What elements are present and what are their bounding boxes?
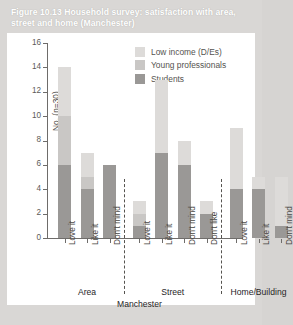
bar-segment bbox=[178, 141, 191, 165]
x-axis-tick-mark bbox=[162, 239, 163, 243]
y-axis-tick-label: 14 bbox=[32, 62, 41, 71]
x-axis-tick-label: Don't like bbox=[210, 212, 219, 245]
chart-plot-area: No. (n=30) 0246810121416 bbox=[47, 43, 243, 239]
figure-inner: Figure 10.13 Household survey: satisfact… bbox=[7, 6, 255, 318]
x-axis-tick-label: Love it bbox=[68, 221, 77, 245]
bar-segment bbox=[252, 189, 262, 238]
bar-segment bbox=[230, 128, 243, 189]
x-axis-tick-label: Don't mind bbox=[188, 206, 197, 245]
x-axis-tick-label: Love it bbox=[240, 221, 249, 245]
y-axis-tick-mark bbox=[43, 238, 47, 239]
bar-segment bbox=[58, 116, 71, 165]
y-axis-tick-label: 2 bbox=[36, 208, 41, 217]
y-axis-tick-label: 4 bbox=[36, 184, 41, 193]
y-axis-tick-label: 0 bbox=[36, 233, 41, 242]
x-axis-group-label: Home/Building bbox=[214, 287, 263, 297]
x-axis-tick-label: Like it bbox=[91, 224, 100, 245]
bar-stack bbox=[58, 67, 71, 238]
group-divider bbox=[221, 179, 222, 294]
x-axis-tick-label: Don't mind bbox=[113, 206, 122, 245]
x-axis-group-label: Area bbox=[42, 287, 132, 297]
bar-segment bbox=[155, 80, 168, 153]
y-axis-line bbox=[47, 43, 48, 239]
bar-segment bbox=[58, 67, 71, 116]
x-axis-tick-mark bbox=[65, 239, 66, 243]
x-axis-title: Manchester bbox=[117, 299, 162, 309]
figure-container: Figure 10.13 Household survey: satisfact… bbox=[0, 0, 262, 325]
y-axis-tick-mark bbox=[43, 116, 47, 117]
x-axis-tick-label: Like it bbox=[165, 224, 174, 245]
x-axis-tick-label: Love it bbox=[143, 221, 152, 245]
y-axis-tick-label: 6 bbox=[36, 159, 41, 168]
y-axis-tick-mark bbox=[43, 92, 47, 93]
x-axis-tick-mark bbox=[259, 239, 260, 243]
y-axis-tick-mark bbox=[43, 67, 47, 68]
x-axis-tick-mark bbox=[87, 239, 88, 243]
y-axis-tick-mark bbox=[43, 214, 47, 215]
bar-stack bbox=[155, 80, 168, 238]
y-axis-tick-mark bbox=[43, 165, 47, 166]
y-axis-tick-label: 16 bbox=[32, 38, 41, 47]
y-axis-tick-label: 8 bbox=[36, 135, 41, 144]
x-axis-tick-mark bbox=[207, 239, 208, 243]
x-axis-group-label: Street bbox=[128, 287, 218, 297]
y-axis-tick-mark bbox=[43, 43, 47, 44]
y-axis-tick-label: 12 bbox=[32, 86, 41, 95]
bar-segment bbox=[81, 153, 94, 177]
y-axis-tick-label: 10 bbox=[32, 111, 41, 120]
bar-stack bbox=[252, 177, 262, 238]
bar-segment bbox=[252, 177, 262, 189]
plot-card: Low income (D/Es)Young professionalsStud… bbox=[7, 33, 255, 305]
bar-segment bbox=[81, 177, 94, 189]
x-axis-tick-mark bbox=[110, 239, 111, 243]
bar-segment bbox=[133, 201, 146, 213]
x-axis-tick-mark bbox=[139, 239, 140, 243]
y-axis-tick-mark bbox=[43, 189, 47, 190]
x-axis-tick-mark bbox=[184, 239, 185, 243]
figure-caption: Figure 10.13 Household survey: satisfact… bbox=[7, 6, 255, 30]
x-axis-tick-mark bbox=[236, 239, 237, 243]
group-divider bbox=[124, 179, 125, 294]
y-axis-tick-mark bbox=[43, 141, 47, 142]
